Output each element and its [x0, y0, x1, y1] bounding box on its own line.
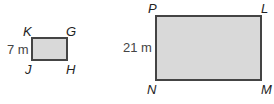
- rectangle-kghj: [31, 37, 68, 61]
- vertex-n: N: [147, 83, 156, 96]
- vertex-h: H: [66, 63, 75, 76]
- vertex-l: L: [261, 2, 268, 15]
- vertex-k: K: [23, 25, 32, 38]
- vertex-g: G: [66, 25, 76, 38]
- vertex-j: J: [25, 63, 32, 76]
- vertex-m: M: [261, 83, 272, 96]
- rectangle-plmn: [155, 15, 262, 81]
- side-length-label: 21 m: [123, 41, 152, 54]
- vertex-p: P: [148, 2, 157, 15]
- side-length-label: 7 m: [7, 43, 29, 56]
